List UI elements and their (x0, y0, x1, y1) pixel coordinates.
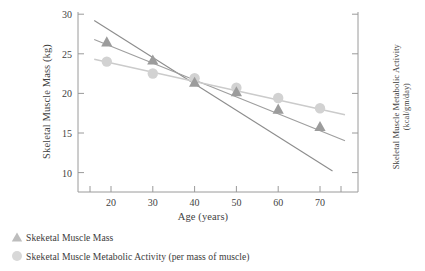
y-axis-right-ticks (352, 14, 358, 172)
legend-item-metabolic-activity: Skeketal Muscle Metabolic Activity (per … (8, 247, 418, 265)
legend-label-muscle-mass: Skeketal Muscle Mass (26, 232, 113, 243)
y-axis-left-ticks (78, 14, 84, 172)
legend-item-muscle-mass: Skeketal Muscle Mass (8, 228, 418, 246)
circle-marker-icon (8, 248, 26, 264)
series-markers-metabolic-activity (102, 56, 326, 113)
series-line-muscle-mass (94, 40, 345, 141)
chart-legend: Skeketal Muscle Mass Skeketal Muscle Met… (8, 228, 418, 266)
series-line-steep (94, 21, 332, 172)
series-line-metabolic-activity (94, 59, 345, 115)
series-markers-muscle-mass (101, 36, 325, 131)
legend-label-metabolic-activity: Skeketal Muscle Metabolic Activity (per … (26, 251, 250, 262)
triangle-marker-icon (8, 229, 26, 245)
chart-figure: Skeletal Muscle Mass (kg) Skeletal Muscl… (0, 0, 425, 271)
x-axis-ticks (90, 186, 341, 192)
